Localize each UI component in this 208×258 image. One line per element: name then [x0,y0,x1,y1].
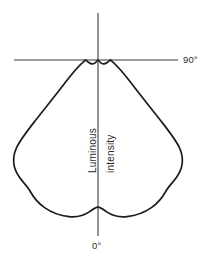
polar-diagram-canvas [0,0,208,258]
angle-label-0-degrees: 0° [92,241,101,251]
angle-label-90-degrees: 90° [183,55,198,65]
axis-label-intensity: intensity [106,135,116,174]
axis-label-luminous: Luminous [88,128,98,173]
polar-intensity-figure: 90° 0° Luminous intensity [0,0,208,258]
